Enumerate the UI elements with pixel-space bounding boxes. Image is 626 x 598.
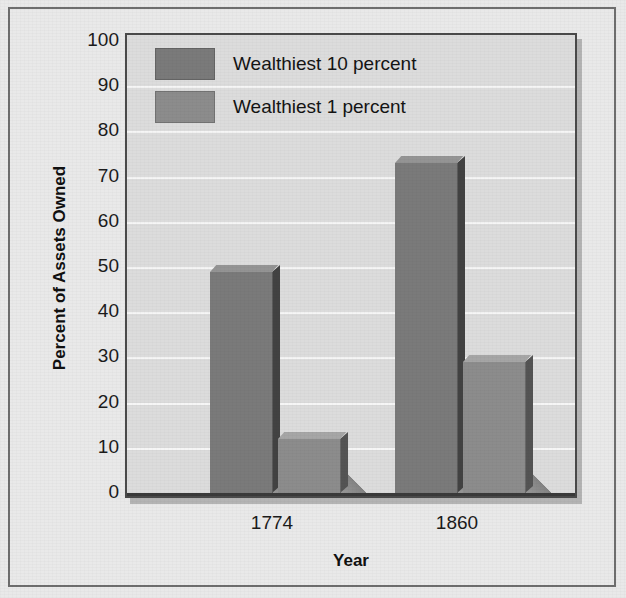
gridline [127, 222, 575, 224]
y-tick-label: 20 [73, 392, 119, 411]
legend-swatch [155, 48, 215, 80]
y-tick-label: 30 [73, 346, 119, 365]
bar-top-face [278, 432, 346, 439]
legend-item: Wealthiest 10 percent [155, 48, 416, 80]
x-axis-title: Year [125, 551, 577, 571]
bar-top-face [395, 156, 463, 163]
bar-front-face [463, 362, 526, 493]
bar-side-face [525, 355, 533, 493]
y-tick-label: 0 [73, 482, 119, 501]
y-tick-label: 80 [73, 120, 119, 139]
y-tick-label: 100 [73, 30, 119, 49]
bar [395, 163, 457, 493]
bar [463, 362, 525, 493]
y-tick-label: 60 [73, 211, 119, 230]
gridline [127, 267, 575, 269]
legend-label: Wealthiest 1 percent [233, 96, 406, 118]
x-tick-label: 1774 [212, 512, 332, 534]
chart-legend: Wealthiest 10 percentWealthiest 1 percen… [155, 48, 416, 134]
y-tick-label: 70 [73, 166, 119, 185]
bar [278, 439, 340, 493]
bar-front-face [395, 163, 458, 493]
bar-front-face [278, 439, 341, 493]
y-axis-tick-labels: 1009080706050403020100 [73, 33, 119, 498]
bar [210, 272, 272, 493]
y-axis-title: Percent of Assets Owned [50, 128, 70, 408]
legend-label: Wealthiest 10 percent [233, 53, 416, 75]
bar-top-face [210, 265, 278, 272]
bar-front-face [210, 272, 273, 493]
y-tick-label: 50 [73, 256, 119, 275]
x-tick-label: 1860 [397, 512, 517, 534]
gridline [127, 312, 575, 314]
legend-swatch [155, 91, 215, 123]
y-tick-label: 40 [73, 301, 119, 320]
bar-side-face [340, 432, 348, 493]
y-tick-label: 90 [73, 75, 119, 94]
gridline [127, 177, 575, 179]
bar-chart-figure: 1009080706050403020100 Percent of Assets… [0, 0, 626, 598]
x-axis-line [127, 493, 575, 496]
y-tick-label: 10 [73, 437, 119, 456]
bar-top-face [463, 355, 531, 362]
legend-item: Wealthiest 1 percent [155, 91, 416, 123]
